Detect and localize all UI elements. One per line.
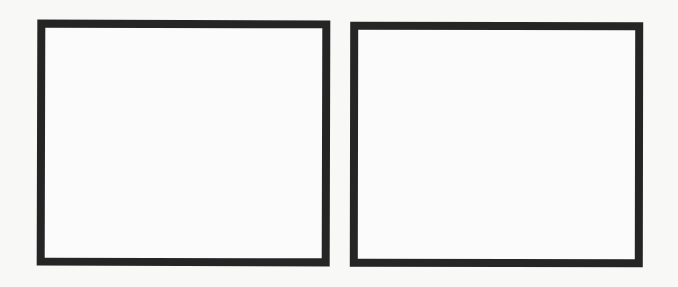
empty-frame-left [37, 20, 331, 267]
frame-content-right [358, 30, 635, 259]
scanned-page [0, 0, 678, 287]
empty-frame-right [350, 22, 643, 268]
frame-content-left [45, 28, 323, 259]
